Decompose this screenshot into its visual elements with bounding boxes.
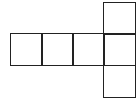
- net-square-row-3: [72, 33, 105, 66]
- net-square-top: [103, 2, 136, 35]
- cube-net-diagram: [0, 0, 138, 109]
- net-square-bottom: [103, 65, 136, 98]
- net-square-row-1: [10, 33, 43, 66]
- net-square-row-2: [41, 33, 74, 66]
- net-square-row-4: [103, 33, 136, 66]
